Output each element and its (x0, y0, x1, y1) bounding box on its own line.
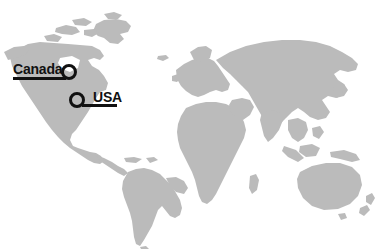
map-marker-label-usa: USA (93, 90, 122, 104)
world-map-container: Canada USA (0, 0, 375, 249)
annotation-layer: Canada USA (0, 0, 375, 249)
circle-marker-icon-canada[interactable] (61, 64, 77, 80)
circle-marker-icon-usa[interactable] (69, 92, 85, 108)
map-marker-label-canada: Canada (13, 62, 62, 76)
leader-line-canada (13, 77, 66, 80)
